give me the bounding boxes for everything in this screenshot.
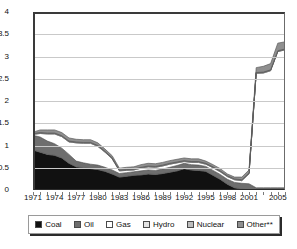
legend-item-other[interactable]: Other** <box>237 220 273 229</box>
legend-item-oil[interactable]: Oil <box>74 220 94 229</box>
chart-legend: CoalOilGasHydroNuclearOther** <box>28 215 280 234</box>
legend-item-label: Coal <box>45 220 61 229</box>
legend-swatch-icon <box>35 221 42 228</box>
y-axis-tick-label: 2.5 <box>0 75 9 83</box>
legend-item-coal[interactable]: Coal <box>35 220 61 229</box>
x-axis-tick-label: 1980 <box>89 194 107 202</box>
x-axis-tick-label: 1977 <box>67 194 85 202</box>
x-axis-tick-mark <box>263 192 264 195</box>
x-axis-tick-label: 1992 <box>175 194 193 202</box>
gridline <box>33 168 285 169</box>
legend-item-nuclear[interactable]: Nuclear <box>187 220 225 229</box>
y-axis-tick-label: 4 <box>0 8 9 16</box>
y-axis-tick-label: 3 <box>0 53 9 61</box>
stacked-area-chart: TWh 43.532.521.510.50 197119741977198019… <box>0 0 297 249</box>
x-axis-tick-label: 1974 <box>46 194 64 202</box>
x-axis-tick-label: 1986 <box>132 194 150 202</box>
x-axis-tick-label: 2005 <box>269 194 287 202</box>
x-axis-tick-label: 1989 <box>154 194 172 202</box>
legend-item-label: Oil <box>84 220 94 229</box>
x-axis-tick-label: 1998 <box>218 194 236 202</box>
y-axis-tick-label: 0 <box>0 186 9 194</box>
gridline <box>33 101 285 102</box>
plot-area <box>33 12 285 190</box>
gridline <box>33 123 285 124</box>
x-axis: 1971197419771980198319861989199219951998… <box>33 192 285 206</box>
x-axis-tick-label: 1983 <box>110 194 128 202</box>
y-axis-tick-label: 0.5 <box>0 164 9 172</box>
legend-item-label: Nuclear <box>197 220 225 229</box>
y-axis-tick-label: 3.5 <box>0 30 9 38</box>
legend-swatch-icon <box>74 221 81 228</box>
legend-swatch-icon <box>106 221 113 228</box>
legend-item-label: Other** <box>247 220 273 229</box>
legend-item-hydro[interactable]: Hydro <box>143 220 174 229</box>
gridline <box>33 34 285 35</box>
x-axis-tick-label: 2001 <box>240 194 258 202</box>
y-axis-tick-label: 1.5 <box>0 119 9 127</box>
gridline <box>33 57 285 58</box>
gridline <box>33 79 285 80</box>
y-axis-tick-label: 2 <box>0 97 9 105</box>
gridline <box>33 146 285 147</box>
legend-item-gas[interactable]: Gas <box>106 220 131 229</box>
legend-item-label: Gas <box>116 220 131 229</box>
y-axis-tick-label: 1 <box>0 142 9 150</box>
x-axis-tick-label: 1971 <box>24 194 42 202</box>
legend-swatch-icon <box>187 221 194 228</box>
legend-swatch-icon <box>237 221 244 228</box>
legend-swatch-icon <box>143 221 150 228</box>
x-axis-tick-label: 1995 <box>197 194 215 202</box>
legend-item-label: Hydro <box>153 220 174 229</box>
